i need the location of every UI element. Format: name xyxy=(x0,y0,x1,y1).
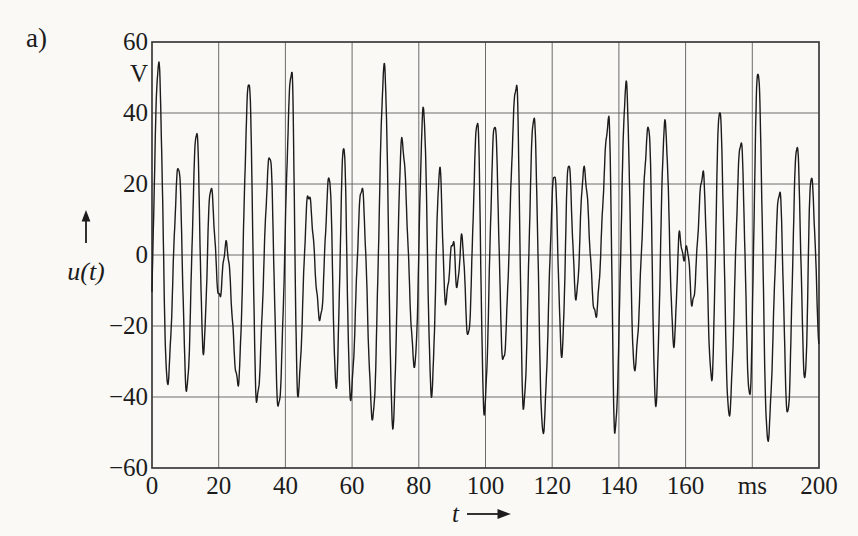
y-tick-label: −40 xyxy=(86,382,148,412)
x-tick-label: 80 xyxy=(383,472,455,500)
figure-panel: a) V 6040200−20−40−60 020406080100120140… xyxy=(0,0,858,536)
y-tick-label: 20 xyxy=(86,169,148,199)
x-tick-label: 160 xyxy=(650,472,722,500)
panel-label: a) xyxy=(26,24,47,54)
x-tick-label: 60 xyxy=(316,472,388,500)
x-tick-label: 100 xyxy=(450,472,522,500)
y-tick-label: 60 xyxy=(86,27,148,57)
x-tick-label: 0 xyxy=(116,472,188,500)
x-tick-label: 200 xyxy=(783,472,855,500)
x-tick-label: 120 xyxy=(516,472,588,500)
y-axis-label: u(t) xyxy=(56,258,116,287)
x-tick-label: 40 xyxy=(249,472,321,500)
y-tick-label: 40 xyxy=(86,98,148,128)
x-tick-label: 140 xyxy=(583,472,655,500)
x-axis-label: t xyxy=(452,500,459,528)
x-axis-title-group: t xyxy=(452,499,511,529)
y-axis-title-group: u(t) xyxy=(56,210,116,287)
right-arrow-icon xyxy=(467,507,511,521)
y-axis-unit: V xyxy=(86,60,148,88)
x-tick-label: ms xyxy=(716,472,788,500)
up-arrow-icon xyxy=(79,210,93,244)
y-tick-label: −20 xyxy=(86,311,148,341)
x-tick-label: 20 xyxy=(183,472,255,500)
